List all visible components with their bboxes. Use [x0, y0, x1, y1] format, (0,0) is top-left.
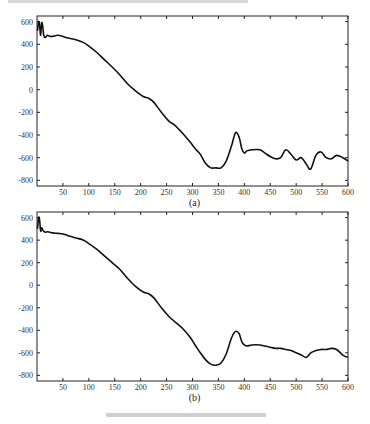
y-tick-label: -400: [18, 131, 33, 140]
y-tick-label: 400: [21, 236, 33, 245]
series-line-curve: [38, 21, 348, 169]
x-tick-label: 50: [59, 383, 67, 392]
x-tick-label: 100: [83, 383, 95, 392]
y-tick-label: -200: [18, 108, 33, 117]
x-tick-label: 50: [59, 188, 67, 197]
figure-svg: 50100150200250300350400450500550600-800-…: [0, 0, 370, 424]
y-tick-label: -800: [18, 371, 33, 380]
y-tick-label: -400: [18, 326, 33, 335]
x-tick-label: 600: [342, 188, 354, 197]
x-tick-label: 200: [135, 188, 147, 197]
x-tick-label: 150: [109, 188, 121, 197]
chart-panel-b: 50100150200250300350400450500550600-800-…: [18, 212, 354, 404]
x-tick-label: 250: [161, 188, 173, 197]
figure-caption-fragment: [106, 413, 266, 417]
x-tick-label: 500: [290, 188, 302, 197]
panel-label: (a): [189, 197, 200, 209]
y-tick-label: 600: [21, 18, 33, 27]
x-tick-label: 150: [109, 383, 121, 392]
y-tick-label: 600: [21, 214, 33, 223]
x-tick-label: 550: [316, 188, 328, 197]
y-tick-label: -600: [18, 349, 33, 358]
chart-panel-a: 50100150200250300350400450500550600-800-…: [18, 16, 354, 209]
y-tick-label: 200: [21, 63, 33, 72]
x-tick-label: 500: [290, 383, 302, 392]
x-tick-label: 600: [342, 383, 354, 392]
x-tick-label: 250: [161, 383, 173, 392]
y-tick-label: -200: [18, 304, 33, 313]
x-tick-label: 450: [264, 188, 276, 197]
y-tick-label: 400: [21, 40, 33, 49]
x-tick-label: 550: [316, 383, 328, 392]
x-tick-label: 300: [187, 188, 199, 197]
x-tick-label: 300: [187, 383, 199, 392]
panel-label: (b): [189, 392, 201, 404]
y-tick-label: 0: [29, 86, 33, 95]
y-tick-label: 0: [29, 281, 33, 290]
series-line-curve: [38, 217, 348, 365]
x-tick-label: 400: [238, 383, 250, 392]
x-tick-label: 350: [212, 383, 224, 392]
x-tick-label: 100: [83, 188, 95, 197]
x-tick-label: 450: [264, 383, 276, 392]
y-tick-label: -800: [18, 176, 33, 185]
x-tick-label: 400: [238, 188, 250, 197]
plot-frame: [37, 16, 348, 186]
x-tick-label: 200: [135, 383, 147, 392]
y-tick-label: 200: [21, 259, 33, 268]
y-tick-label: -600: [18, 154, 33, 163]
x-tick-label: 350: [212, 188, 224, 197]
